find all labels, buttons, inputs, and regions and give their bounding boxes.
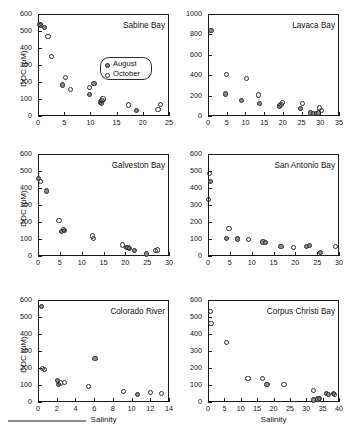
y-tick-label-corpus-christi-bay: 300: [172, 346, 202, 355]
y-tick-label-corpus-christi-bay: 400: [172, 329, 202, 338]
y-tick-corpus-christi-bay: [208, 385, 212, 386]
data-point-corpus-christi-bay-october: [311, 388, 316, 393]
y-tick-corpus-christi-bay: [208, 300, 212, 301]
y-tick-label-corpus-christi-bay: 100: [172, 380, 202, 389]
footer-rule: [8, 420, 86, 422]
x-tick-corpus-christi-bay: [290, 398, 291, 402]
x-tick-corpus-christi-bay: [306, 398, 307, 402]
x-tick-corpus-christi-bay: [257, 398, 258, 402]
x-tick-corpus-christi-bay: [339, 398, 340, 402]
data-point-corpus-christi-bay-october: [245, 376, 250, 381]
panel-title-corpus-christi-bay: Corpus Christi Bay: [267, 307, 335, 316]
data-point-corpus-christi-bay-october: [260, 376, 265, 381]
x-tick-corpus-christi-bay: [224, 398, 225, 402]
y-tick-label-corpus-christi-bay: 200: [172, 363, 202, 372]
y-tick-corpus-christi-bay: [208, 402, 212, 403]
x-tick-corpus-christi-bay: [208, 398, 209, 402]
y-tick-corpus-christi-bay: [208, 334, 212, 335]
data-point-corpus-christi-bay-august: [264, 382, 269, 387]
x-tick-corpus-christi-bay: [241, 398, 242, 402]
x-tick-corpus-christi-bay: [323, 398, 324, 402]
data-point-corpus-christi-bay-october: [224, 340, 229, 345]
data-point-corpus-christi-bay-october: [208, 321, 213, 326]
y-tick-corpus-christi-bay: [208, 368, 212, 369]
y-tick-label-corpus-christi-bay: 600: [172, 295, 202, 304]
y-tick-corpus-christi-bay: [208, 351, 212, 352]
y-tick-label-corpus-christi-bay: 500: [172, 312, 202, 321]
x-tick-corpus-christi-bay: [274, 398, 275, 402]
x-axis-label-corpus-christi-bay: Salinity: [208, 415, 339, 424]
data-point-corpus-christi-bay-october: [317, 396, 322, 401]
y-tick-corpus-christi-bay: [208, 317, 212, 318]
data-point-corpus-christi-bay-october: [281, 382, 286, 387]
x-tick-label-corpus-christi-bay: 40: [327, 404, 348, 413]
